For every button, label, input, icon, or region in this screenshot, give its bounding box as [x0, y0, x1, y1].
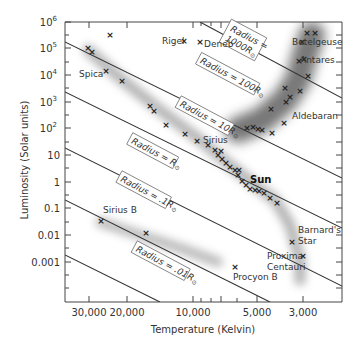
y-axis-title: Luminosity (Solar units)	[19, 101, 30, 220]
star-regions	[88, 35, 312, 280]
radius-1-label: Radius = R⊙	[127, 133, 184, 172]
svg-text:×: ×	[296, 86, 304, 96]
x-tick-5000: 5,000	[243, 307, 272, 318]
label-deneb: Deneb	[204, 39, 234, 49]
label-sirius-b: Sirius B	[103, 205, 137, 215]
svg-text:×: ×	[281, 83, 289, 93]
y-tick-1e6: 106	[40, 15, 58, 28]
label-antares: Antares	[300, 55, 335, 65]
svg-text:×: ×	[88, 47, 96, 57]
svg-text:×: ×	[273, 198, 281, 208]
svg-text:×: ×	[231, 262, 239, 272]
y-tick-0.1: 0.1	[44, 203, 60, 214]
label-proxima-2: Centauri	[267, 262, 305, 272]
svg-text:×: ×	[268, 128, 276, 138]
label-rigel: Rigel	[162, 36, 185, 46]
svg-text:Radius = 100R⊙: Radius = 100R⊙	[198, 56, 267, 100]
svg-text:×: ×	[267, 104, 275, 114]
x-tick-labels: 30,000 20,000 10,000 5,000 3,000	[72, 307, 318, 318]
radius-100-label: Radius = 100R⊙	[196, 52, 268, 99]
svg-text:×: ×	[150, 106, 158, 116]
label-sun: Sun	[250, 174, 271, 185]
x-tick-10000: 10,000	[176, 307, 211, 318]
svg-text:×: ×	[181, 129, 189, 139]
y-tick-labels: 106 105 104 103 102 10 1 0.1 0.01 0.001	[31, 15, 60, 268]
label-procyon-b: Procyon B	[233, 272, 278, 282]
y-tick-1e2: 102	[40, 121, 57, 134]
svg-text:Radius = R⊙: Radius = R⊙	[129, 136, 183, 172]
x-tick-3000: 3,000	[289, 307, 318, 318]
y-tick-0.01: 0.01	[38, 230, 60, 241]
svg-text:×: ×	[304, 71, 312, 81]
label-proxima-1: Proxima	[267, 251, 303, 261]
svg-text:×: ×	[106, 30, 114, 40]
svg-text:×: ×	[196, 37, 204, 47]
y-tick-1e3: 103	[40, 95, 57, 108]
label-aldebaran: Aldebaran	[292, 111, 338, 121]
svg-text:×: ×	[288, 237, 296, 247]
y-tick-1e5: 105	[40, 41, 57, 54]
label-barnards-star-1: Barnard's	[298, 225, 341, 235]
svg-text:×: ×	[118, 76, 126, 86]
hr-diagram: 106 105 104 103 102 10 1 0.1 0.01 0.001 …	[0, 0, 361, 348]
label-betelgeuse: Betelgeuse	[292, 37, 343, 47]
y-tick-10: 10	[47, 150, 60, 161]
y-tick-1e4: 104	[40, 68, 58, 81]
y-tick-0.001: 0.001	[31, 257, 60, 268]
svg-text:×: ×	[280, 118, 288, 128]
x-tick-20000: 20,000	[110, 307, 145, 318]
svg-text:×: ×	[258, 125, 266, 135]
svg-text:×: ×	[286, 92, 294, 102]
label-sirius: Sirius	[203, 135, 228, 145]
svg-text:×: ×	[142, 228, 150, 238]
svg-text:×: ×	[97, 216, 105, 226]
y-tick-1: 1	[54, 177, 60, 188]
radius-line-001	[65, 255, 160, 302]
label-barnards-star-2: Star	[298, 236, 317, 246]
x-tick-30000: 30,000	[72, 307, 107, 318]
svg-text:×: ×	[162, 120, 170, 130]
label-spica: Spica	[79, 69, 103, 79]
x-axis-title: Temperature (Kelvin)	[150, 324, 255, 335]
radius-line-01	[65, 200, 270, 302]
radius-labels: Radius = 1000R⊙ Radius = 100R⊙ Radius = …	[116, 19, 271, 286]
svg-text:×: ×	[193, 136, 201, 146]
